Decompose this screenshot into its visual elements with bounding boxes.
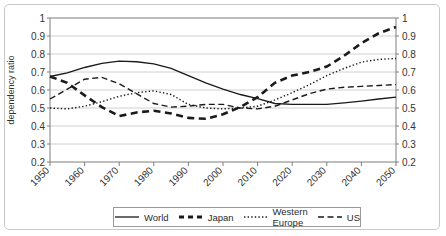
legend-item-japan: Japan — [178, 212, 234, 223]
legend-swatch-us — [317, 212, 343, 222]
legend-item-world: World — [114, 212, 169, 223]
y-tick-label-right: 0.7 — [402, 67, 416, 78]
legend-swatch-western-europe — [243, 212, 269, 222]
y-axis-title: dependency ratio — [6, 55, 16, 124]
x-tick-label: 2050 — [374, 164, 398, 188]
y-tick-label-left: 0.7 — [31, 67, 45, 78]
legend-item-us: US — [317, 212, 360, 223]
gridlines — [47, 18, 399, 162]
y-tick-label-left: 0.9 — [31, 31, 45, 42]
y-tick-label-right: 0.2 — [402, 157, 416, 168]
y-axis-left-labels: 0.20.30.40.50.60.70.80.91 — [31, 13, 45, 168]
chart-svg: 0.20.30.40.50.60.70.80.91 0.20.30.40.50.… — [0, 0, 446, 236]
y-tick-label-left: 0.4 — [31, 121, 45, 132]
legend-label-world: World — [144, 212, 169, 223]
y-tick-label-right: 0.9 — [402, 31, 416, 42]
x-tick-label: 2030 — [305, 164, 329, 188]
y-tick-label-left: 0.5 — [31, 103, 45, 114]
series-line-world — [50, 61, 396, 104]
dependency-ratio-line-chart: 0.20.30.40.50.60.70.80.91 0.20.30.40.50.… — [0, 0, 446, 236]
y-tick-label-right: 0.8 — [402, 49, 416, 60]
y-axis-right-labels: 0.20.30.40.50.60.70.80.91 — [402, 13, 416, 168]
y-tick-label-right: 0.6 — [402, 85, 416, 96]
y-tick-label-left: 0.6 — [31, 85, 45, 96]
x-tick-label: 2020 — [270, 164, 294, 188]
y-tick-label-left: 1 — [39, 13, 45, 24]
y-tick-label-right: 0.5 — [402, 103, 416, 114]
x-tick-label: 2040 — [339, 164, 363, 188]
x-tick-label: 1970 — [97, 164, 121, 188]
legend-label-us: US — [347, 212, 360, 223]
series-line-western-europe — [50, 59, 396, 109]
x-axis-tick-labels: 1950196019701980199020002010202020302040… — [28, 164, 398, 188]
x-tick-label: 1980 — [132, 164, 156, 188]
x-tick-label: 1950 — [28, 164, 52, 188]
series-lines — [50, 27, 396, 119]
legend-label-japan: Japan — [208, 212, 234, 223]
legend-swatch-japan — [178, 212, 204, 222]
x-axis-ticks — [50, 162, 396, 166]
legend-swatch-world — [114, 212, 140, 222]
y-tick-label-left: 0.8 — [31, 49, 45, 60]
x-tick-label: 2000 — [201, 164, 225, 188]
y-tick-label-right: 0.3 — [402, 139, 416, 150]
y-tick-label-right: 1 — [402, 13, 408, 24]
x-tick-label: 2010 — [236, 164, 260, 188]
series-line-us — [50, 77, 396, 109]
legend-label-western-europe: Western Europe — [273, 206, 308, 228]
x-tick-label: 1960 — [63, 164, 87, 188]
x-tick-label: 1990 — [166, 164, 190, 188]
legend-item-western-europe: Western Europe — [243, 206, 308, 228]
chart-legend: World Japan Western Europe US — [113, 207, 361, 227]
y-tick-label-left: 0.3 — [31, 139, 45, 150]
y-tick-label-right: 0.4 — [402, 121, 416, 132]
